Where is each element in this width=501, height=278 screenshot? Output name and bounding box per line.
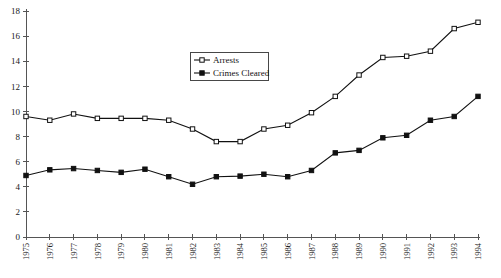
data-point-marker — [190, 182, 194, 186]
y-tick-label: 18 — [11, 6, 21, 16]
x-tick-label: 1989 — [354, 243, 364, 260]
data-point-marker — [48, 168, 52, 172]
y-tick-label: 8 — [16, 132, 21, 142]
x-tick-label: 1987 — [307, 243, 317, 260]
x-tick-label: 1977 — [69, 243, 79, 260]
data-point-marker — [452, 114, 456, 118]
data-point-marker — [24, 114, 28, 118]
x-tick-label: 1980 — [140, 243, 150, 260]
chart-legend: ArrestsCrimes Cleared — [190, 52, 270, 80]
data-point-marker — [143, 167, 147, 171]
x-axis: 1975197619771978197919801981198219831984… — [21, 234, 483, 260]
y-tick-label: 0 — [16, 232, 21, 242]
data-point-marker — [238, 139, 242, 143]
data-point-marker — [95, 116, 99, 120]
data-point-marker — [190, 127, 194, 131]
series-line — [26, 96, 478, 184]
chart-canvas: 024681012141618 197519761977197819791980… — [0, 0, 501, 278]
x-tick-label: 1976 — [45, 243, 55, 260]
data-point-marker — [71, 166, 75, 170]
data-point-marker — [428, 49, 432, 53]
y-tick-label: 14 — [11, 56, 21, 66]
x-tick-label: 1979 — [116, 243, 126, 260]
y-tick-label: 10 — [11, 107, 21, 117]
data-point-marker — [428, 118, 432, 122]
x-tick-label: 1988 — [330, 243, 340, 260]
data-point-marker — [309, 111, 313, 115]
data-point-marker — [404, 133, 408, 137]
data-point-marker — [143, 116, 147, 120]
data-point-marker — [381, 136, 385, 140]
data-point-marker — [357, 73, 361, 77]
y-tick-label: 4 — [16, 182, 21, 192]
x-tick-label: 1984 — [235, 242, 245, 260]
x-tick-label: 1986 — [283, 243, 293, 260]
data-point-marker — [357, 148, 361, 152]
data-series-group — [24, 20, 480, 186]
data-point-marker — [476, 20, 480, 24]
data-point-marker — [262, 172, 266, 176]
data-point-marker — [119, 116, 123, 120]
x-tick-label: 1992 — [426, 243, 436, 260]
data-point-marker — [333, 94, 337, 98]
legend-marker — [200, 58, 204, 62]
x-tick-label: 1982 — [188, 243, 198, 260]
data-point-marker — [404, 54, 408, 58]
data-point-marker — [214, 139, 218, 143]
line-chart: 024681012141618 197519761977197819791980… — [0, 0, 501, 278]
data-point-marker — [381, 55, 385, 59]
series-arrests — [24, 20, 480, 144]
legend-marker — [200, 71, 204, 75]
data-point-marker — [119, 170, 123, 174]
x-tick-label: 1985 — [259, 243, 269, 260]
data-point-marker — [238, 174, 242, 178]
data-point-marker — [285, 175, 289, 179]
x-tick-label: 1978 — [93, 243, 103, 260]
data-point-marker — [214, 175, 218, 179]
data-point-marker — [262, 127, 266, 131]
x-tick-label: 1975 — [21, 243, 31, 260]
data-point-marker — [285, 123, 289, 127]
data-point-marker — [309, 168, 313, 172]
y-tick-label: 16 — [11, 31, 21, 41]
y-axis: 024681012141618 — [11, 6, 29, 242]
data-point-marker — [95, 168, 99, 172]
series-line — [26, 22, 478, 141]
x-tick-label: 1990 — [378, 243, 388, 260]
data-point-marker — [452, 26, 456, 30]
x-tick-label: 1994 — [473, 242, 483, 260]
x-tick-label: 1983 — [212, 243, 222, 260]
x-tick-label: 1991 — [402, 243, 412, 260]
data-point-marker — [71, 112, 75, 116]
data-point-marker — [167, 175, 171, 179]
data-point-marker — [48, 118, 52, 122]
data-point-marker — [167, 118, 171, 122]
data-point-marker — [476, 94, 480, 98]
y-tick-label: 12 — [11, 82, 20, 92]
legend-label: Arrests — [213, 55, 239, 65]
y-tick-label: 6 — [16, 157, 21, 167]
x-tick-label: 1981 — [164, 243, 174, 260]
x-tick-label: 1993 — [449, 243, 459, 260]
series-crimes-cleared — [24, 94, 480, 186]
legend-label: Crimes Cleared — [213, 68, 270, 78]
data-point-marker — [24, 173, 28, 177]
data-point-marker — [333, 151, 337, 155]
y-tick-label: 2 — [16, 207, 21, 217]
